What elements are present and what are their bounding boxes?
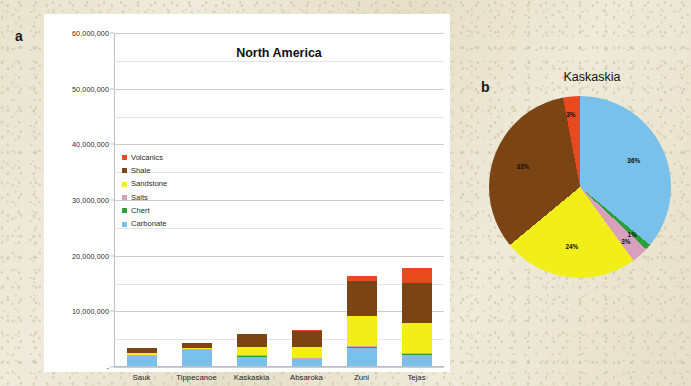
legend-swatch-icon bbox=[122, 168, 127, 173]
bar-chart-legend: VolcanicsShaleSandstoneSaltsChertCarbona… bbox=[122, 151, 167, 231]
bar-slot bbox=[169, 33, 224, 366]
pie-slice-percent-salts: 3% bbox=[621, 238, 630, 245]
pie-slice-percent-carbonate: 36% bbox=[627, 157, 640, 164]
legend-item-label: Carbonate bbox=[131, 220, 166, 228]
y-axis-tick-label: - bbox=[107, 363, 110, 372]
bar-segment-shale bbox=[292, 331, 322, 347]
legend-item-label: Salts bbox=[131, 194, 148, 202]
panel-a-label: a bbox=[15, 28, 23, 44]
x-axis-label: Zuni bbox=[334, 367, 389, 382]
x-axis-label: Absaroka bbox=[279, 367, 334, 382]
pie-slice-percent-sandstone: 24% bbox=[565, 243, 578, 250]
bar-chart-card: North America -10,000,00020,000,00030,00… bbox=[44, 14, 450, 372]
legend-swatch-icon bbox=[122, 222, 127, 227]
y-axis-tick-label: 50,000,000 bbox=[72, 84, 109, 93]
legend-item-label: Sandstone bbox=[131, 180, 167, 188]
pie-chart-title: Kaskaskia bbox=[512, 70, 672, 84]
bar-segment-shale bbox=[237, 334, 267, 347]
bar-slot bbox=[279, 33, 334, 366]
y-axis-tick-label: 60,000,000 bbox=[72, 29, 109, 38]
bar-segment-shale bbox=[402, 283, 432, 324]
legend-item-label: Chert bbox=[131, 207, 150, 215]
stacked-bar bbox=[292, 330, 322, 366]
legend-item: Sandstone bbox=[122, 178, 167, 191]
x-axis-label: Tippecanoe bbox=[169, 367, 224, 382]
legend-item-label: Volcanics bbox=[131, 154, 163, 162]
bar-segment-sandstone bbox=[292, 347, 322, 358]
x-axis-label: Tejas bbox=[389, 367, 444, 382]
legend-item: Shale bbox=[122, 164, 167, 177]
bar-segment-sandstone bbox=[402, 323, 432, 353]
bar-slot bbox=[224, 33, 279, 366]
legend-swatch-icon bbox=[122, 208, 127, 213]
bar-segment-carbonate bbox=[182, 350, 212, 366]
legend-item: Volcanics bbox=[122, 151, 167, 164]
bar-segment-sandstone bbox=[237, 347, 267, 355]
x-axis-label: Kaskaskia bbox=[224, 367, 279, 382]
y-axis-tick-label: 40,000,000 bbox=[72, 140, 109, 149]
legend-swatch-icon bbox=[122, 195, 127, 200]
legend-item-label: Shale bbox=[131, 167, 150, 175]
bar-slot bbox=[334, 33, 389, 366]
bar-segment-carbonate bbox=[237, 357, 267, 366]
stacked-bar bbox=[402, 267, 432, 366]
bar-segment-shale bbox=[347, 281, 377, 317]
legend-item: Chert bbox=[122, 204, 167, 217]
legend-swatch-icon bbox=[122, 182, 127, 187]
y-axis-tick-label: 20,000,000 bbox=[72, 251, 109, 260]
y-axis-tick-label: 30,000,000 bbox=[72, 196, 109, 205]
stacked-bar bbox=[127, 348, 157, 366]
panel-b-label: b bbox=[481, 79, 490, 95]
legend-item: Carbonate bbox=[122, 217, 167, 230]
stacked-bar bbox=[237, 334, 267, 366]
y-axis-tick-label: 10,000,000 bbox=[72, 307, 109, 316]
pie-slice-percent-shale: 33% bbox=[516, 163, 529, 170]
bar-segment-carbonate bbox=[347, 348, 377, 366]
bar-segment-carbonate bbox=[292, 359, 322, 366]
stacked-bar bbox=[347, 276, 377, 366]
x-axis-label: Sauk bbox=[114, 367, 169, 382]
bar-segment-volcanics bbox=[402, 268, 432, 283]
x-axis-labels: SaukTippecanoeKaskaskiaAbsarokaZuniTejas bbox=[114, 367, 444, 382]
legend-swatch-icon bbox=[122, 155, 127, 160]
bar-slot bbox=[389, 33, 444, 366]
bar-segment-sandstone bbox=[347, 316, 377, 346]
legend-item: Salts bbox=[122, 191, 167, 204]
stacked-bar bbox=[182, 343, 212, 366]
figure-root: a North America -10,000,00020,000,00030,… bbox=[0, 0, 691, 386]
pie-slice-percent-volcanics: 3% bbox=[566, 111, 575, 118]
bar-segment-carbonate bbox=[402, 355, 432, 366]
pie-chart bbox=[489, 96, 671, 278]
bar-segment-carbonate bbox=[127, 356, 157, 366]
